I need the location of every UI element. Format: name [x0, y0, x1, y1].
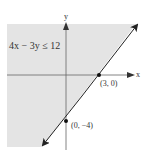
inequality-label: 4x − 3y ≤ 12 [9, 41, 60, 51]
y-axis-label: y [64, 13, 68, 21]
point-y-intercept [64, 119, 68, 123]
y-intercept-label: (0, −4) [71, 122, 93, 130]
inequality-graph [0, 0, 141, 156]
x-intercept-label: (3, 0) [100, 80, 117, 88]
x-axis-label: x [136, 71, 140, 79]
point-x-intercept [97, 73, 101, 77]
